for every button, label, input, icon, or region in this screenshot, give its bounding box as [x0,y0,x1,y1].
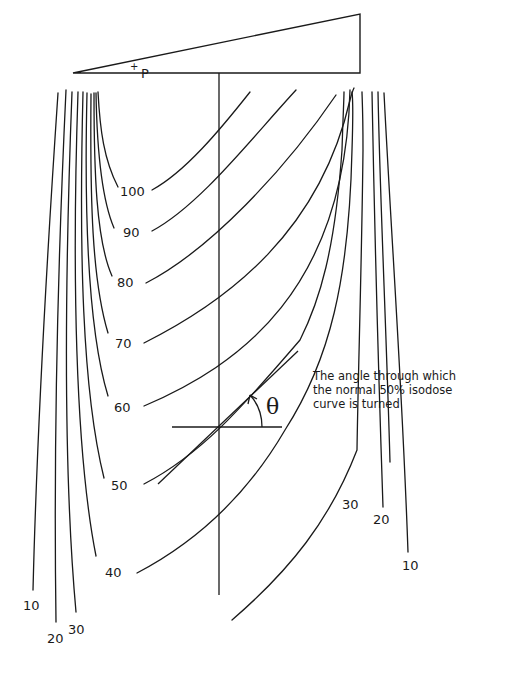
label-70: 70 [115,336,132,351]
isodose-90-right [152,90,296,231]
point-marker: + [130,61,138,72]
label-50: 50 [111,478,128,493]
isodose-90-left [96,93,114,228]
isodose-20-left [55,90,66,622]
isodose-10-right [384,93,408,552]
label-20-right: 20 [373,512,390,527]
isodose-70-left [91,94,108,333]
isodose-80-right [146,95,336,283]
label-100: 100 [120,184,145,199]
isodose-50-right [144,92,344,484]
isodose-50-left [81,92,104,478]
label-20: 20 [47,631,64,646]
wedge-filter [73,14,360,73]
label-30: 30 [68,622,85,637]
annotation-line-3: curve is turned [313,397,400,411]
isodose-60-right [144,90,350,406]
label-60: 60 [114,400,131,415]
label-80: 80 [117,275,134,290]
isodose-10-left [33,93,58,590]
isodose-20-right [372,92,383,507]
isodose-40-right [137,92,353,573]
label-90: 90 [123,225,140,240]
isodose-diagram: + P 100 90 80 70 60 50 40 30 20 10 30 20… [0,0,530,675]
label-30-right: 30 [342,497,359,512]
label-40: 40 [105,565,122,580]
theta-symbol: θ [266,394,279,419]
isodose-30-left [66,92,76,612]
label-10: 10 [23,598,40,613]
isodose-60-left [86,93,108,396]
isodose-100-right [152,92,250,190]
label-10-right: 10 [402,558,419,573]
angle-arc [250,395,262,427]
annotation-line-2: the normal 50% isodose [313,383,452,397]
isodose-30-right [232,92,363,620]
point-p-label: P [141,66,149,81]
annotation-line-1: The angle through which [312,369,456,383]
